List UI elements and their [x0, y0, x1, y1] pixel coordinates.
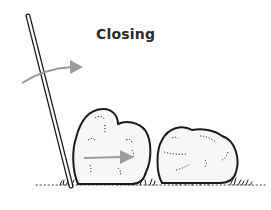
rotation-arrow — [22, 60, 83, 83]
diagram-title: Closing — [96, 26, 155, 42]
pole — [28, 16, 71, 186]
closing-diagram: Closing — [0, 0, 271, 210]
left-shrub — [73, 109, 150, 184]
right-shrub — [158, 127, 238, 183]
